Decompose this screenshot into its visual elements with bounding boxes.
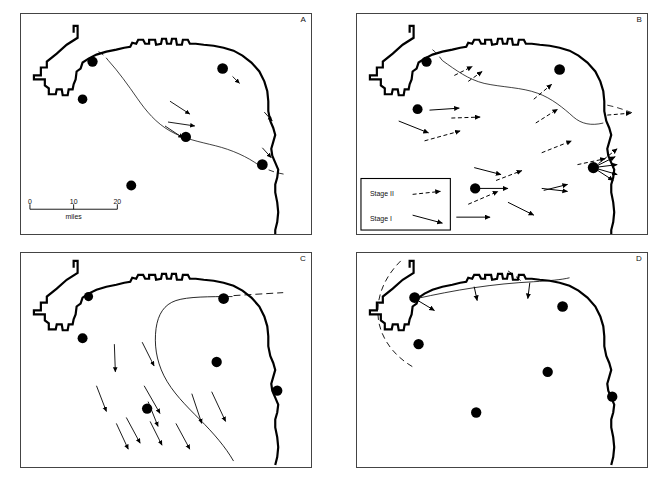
arrow [212,392,226,422]
arrow-dashed [496,171,522,181]
settlement-dot [554,64,565,75]
settlements [409,292,617,417]
settlement-dot [470,183,480,193]
settlement-dot [142,403,152,413]
inferred-boundary-dashed [234,293,284,296]
settlement-dot [413,104,423,114]
arrow [176,423,190,449]
settlement-dot [607,392,617,402]
arrow [150,421,162,445]
settlement-dot [87,56,97,66]
legend-stage-1-label: Stage I [370,215,392,223]
arrow [168,122,195,126]
panel-d[interactable]: D [356,252,648,468]
scale-tick-0: 0 [28,198,32,205]
panel-b-letter: B [636,16,642,24]
panel-b[interactable]: Stage II Stage I B [356,13,648,235]
settlement-dot [78,333,88,343]
movement-arrows [165,76,272,157]
settlements [78,56,268,190]
inferred-boundary-dashed [432,50,633,113]
arrow-dashed [425,131,461,141]
panel-a-map: 0 10 20 miles [21,14,311,234]
panel-c[interactable]: C [20,252,312,468]
scale-bar: 0 10 20 miles [28,198,121,220]
arrow [233,76,240,83]
panel-d-letter: D [636,255,642,263]
settlement-dot [409,292,420,303]
four-panel-map-figure: 0 10 20 miles A [0,0,672,481]
arrow-dashed [451,117,480,118]
settlement-dot [217,63,228,74]
arrow-solid [474,168,501,175]
arrow [126,417,140,443]
settlement-dot [84,292,93,301]
settlement-dot [421,56,431,66]
arrow-dashed [607,113,631,115]
settlement-dot [588,162,599,173]
arrow [474,287,477,301]
settlement-dot [257,159,268,170]
movement-arrows [415,283,530,311]
settlement-dot [272,386,282,396]
settlement-dot [211,357,221,367]
panel-b-map: Stage II Stage I [357,14,647,234]
scale-tick-10: 10 [70,198,78,205]
interior-boundary [442,61,603,125]
settlement-dot [413,339,423,349]
settlement-dot [557,301,568,312]
settlements [413,56,599,193]
arrow [165,126,183,138]
panel-a-letter: A [300,16,306,24]
settlement-dot [126,180,136,190]
legend[interactable]: Stage II Stage I [361,179,450,231]
panel-c-map [21,253,311,467]
settlement-dot [78,94,88,104]
settlement-dot [218,293,229,304]
scale-unit-label: miles [66,213,83,220]
arrow-dashed [468,191,498,204]
interior-boundary [108,61,259,166]
arrow [170,101,190,114]
arrow [142,342,154,366]
arrow-dashed [534,84,552,99]
arrow [528,283,530,299]
arrow-dashed [542,141,572,153]
settlement-dot [471,407,481,417]
settlement-dot [181,132,191,142]
arrow-dashed [468,71,482,81]
arrow-solid [508,202,534,215]
arrow [262,148,271,158]
legend-box [361,179,450,231]
stage-2-arrows [425,67,632,205]
scale-tick-20: 20 [113,198,121,205]
arrow [96,386,106,412]
settlements [78,292,283,414]
arrow [114,344,115,372]
settlement-dot [543,367,553,377]
panel-c-letter: C [300,255,306,263]
arrow [192,394,202,424]
panel-d-map [357,253,647,467]
legend-stage-2-label: Stage II [370,190,394,198]
arrow [116,423,128,449]
arrow-dashed [536,109,558,123]
coastline [370,261,614,465]
interior-boundary [155,297,233,461]
panel-a[interactable]: 0 10 20 miles A [20,13,312,235]
coastline [34,261,278,465]
movement-arrows [96,342,225,449]
arrow-solid [399,121,429,133]
arrow-solid [430,108,460,110]
inferred-boundary-dashed [508,271,523,283]
